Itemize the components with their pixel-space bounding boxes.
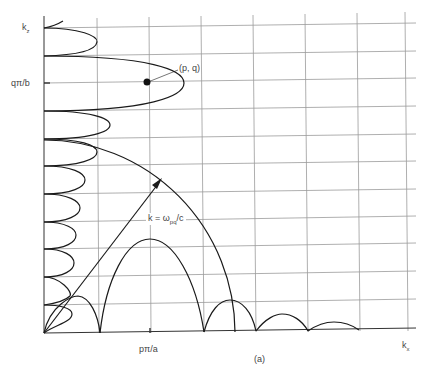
lobe-5 (44, 194, 80, 222)
kx-axis-label: kx (402, 340, 410, 352)
lobe-2 (44, 111, 110, 139)
q-tick-label: qπ/b (11, 78, 30, 88)
lobe-7 (44, 249, 74, 277)
pq-leader (148, 70, 178, 82)
lobe-3 (44, 139, 97, 166)
brillouin-diagram (0, 0, 432, 367)
arch-1 (100, 239, 204, 333)
arrowhead-icon (152, 178, 162, 189)
lobe-0 (44, 28, 97, 56)
top-stub (44, 21, 63, 28)
arch-2 (204, 300, 256, 332)
figure-caption: (a) (254, 354, 265, 364)
wavevector-arrow (44, 184, 158, 333)
axes (44, 16, 416, 333)
pq-point (144, 79, 151, 86)
lobe-8 (44, 277, 70, 305)
lobe-6 (44, 222, 76, 249)
pq-label: (p, q) (179, 63, 200, 73)
lobe-4 (44, 166, 85, 194)
arch-3 (256, 314, 308, 331)
wavevector-label: k = ωpq/c (146, 213, 186, 225)
lobe-9 (44, 305, 72, 333)
grid (44, 12, 416, 333)
kz-axis-label: kz (22, 22, 30, 34)
lobe-pq (44, 56, 184, 111)
p-tick-label: pπ/a (139, 344, 158, 354)
